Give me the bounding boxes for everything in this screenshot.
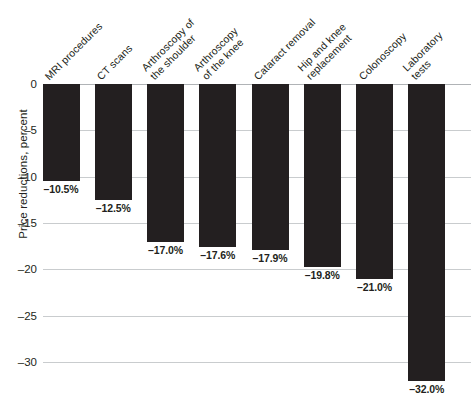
bar-group[interactable]: –12.5%: [95, 84, 132, 220]
bar-group[interactable]: –21.0%: [356, 84, 393, 299]
bar[interactable]: [356, 84, 393, 279]
bar-value-label: –32.0%: [409, 383, 444, 395]
bar[interactable]: [43, 84, 80, 181]
bar-chart: Price reductions, percent 0–5–10–15–20–2…: [0, 0, 471, 396]
bar-value-label: –10.5%: [43, 183, 78, 195]
bar-group[interactable]: –17.6%: [199, 84, 236, 267]
bar-value-label: –17.9%: [252, 252, 287, 264]
bar[interactable]: [408, 84, 445, 381]
bar-value-label: –12.5%: [96, 202, 131, 214]
bar-value-label: –17.6%: [200, 249, 235, 261]
category-labels: MRI proceduresCT scansArthroscopy ofthe …: [43, 0, 471, 84]
bar-value-label: –17.0%: [148, 244, 183, 256]
bar[interactable]: [252, 84, 289, 250]
bar[interactable]: [304, 84, 341, 267]
bar-group[interactable]: –17.0%: [147, 84, 184, 262]
y-tick-label: –15: [18, 217, 37, 229]
y-tick-label: –20: [18, 263, 37, 275]
y-tick-label: –30: [18, 356, 37, 368]
bar-group[interactable]: –10.5%: [43, 84, 80, 201]
bar[interactable]: [199, 84, 236, 247]
bar[interactable]: [147, 84, 184, 242]
bar-group[interactable]: –32.0%: [408, 84, 445, 396]
y-tick-label: 0: [31, 78, 37, 90]
category-label-line: CT scans: [94, 41, 134, 81]
bar-group[interactable]: –17.9%: [252, 84, 289, 270]
y-tick-label: –25: [18, 310, 37, 322]
bar-group[interactable]: –19.8%: [304, 84, 341, 287]
category-label: Colonoscopy: [356, 30, 408, 82]
category-label: Arthroscopy ofthe shoulder: [139, 17, 204, 82]
bar-value-label: –19.8%: [305, 269, 340, 281]
y-tick-label: –5: [24, 124, 37, 136]
y-tick-label: –10: [18, 171, 37, 183]
bar-value-label: –21.0%: [357, 281, 392, 293]
category-label: CT scans: [95, 42, 135, 82]
bars-layer: –10.5%–12.5%–17.0%–17.6%–17.9%–19.8%–21.…: [43, 84, 471, 396]
category-label-line: Colonoscopy: [356, 29, 408, 81]
bar[interactable]: [95, 84, 132, 200]
